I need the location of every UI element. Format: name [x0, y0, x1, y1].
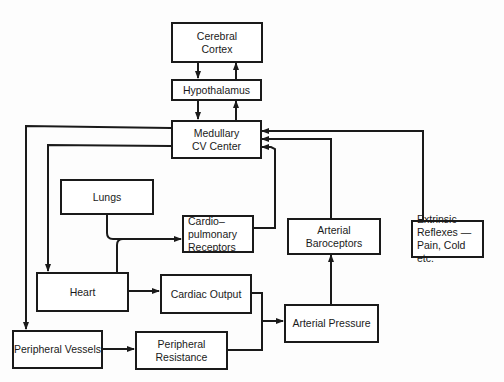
node-label: Cardio– pulmonary Receptors [188, 215, 237, 254]
node-peripheral-resistance: Peripheral Resistance [135, 331, 228, 370]
node-label: Lungs [93, 191, 122, 204]
node-label: Cerebral Cortex [197, 30, 237, 56]
node-label: Heart [70, 286, 96, 299]
node-hypothalamus: Hypothalamus [171, 79, 262, 101]
node-lungs: Lungs [60, 179, 154, 215]
node-label: Peripheral Vessels [14, 343, 101, 356]
node-medullary-cv-center: Medullary CV Center [171, 120, 262, 159]
node-cardiopulmonary-receptors: Cardio– pulmonary Receptors [182, 215, 254, 253]
node-extrinsic-reflexes: Extrinsic Reflexes — Pain, Cold etc. [411, 220, 484, 258]
node-arterial-baroceptors: Arterial Baroceptors [287, 218, 381, 255]
node-peripheral-vessels: Peripheral Vessels [12, 330, 103, 369]
node-label: Arterial Baroceptors [306, 224, 363, 250]
node-arterial-pressure: Arterial Pressure [284, 304, 379, 343]
node-cardiac-output: Cardiac Output [160, 274, 252, 314]
node-label: Hypothalamus [183, 84, 250, 97]
node-label: Medullary CV Center [192, 127, 241, 153]
node-label: Extrinsic Reflexes — Pain, Cold etc. [417, 213, 482, 265]
node-label: Arterial Pressure [292, 317, 370, 330]
node-label: Cardiac Output [171, 288, 242, 301]
node-label: Peripheral Resistance [156, 338, 208, 364]
node-heart: Heart [36, 272, 129, 312]
node-cerebral-cortex: Cerebral Cortex [171, 22, 263, 63]
